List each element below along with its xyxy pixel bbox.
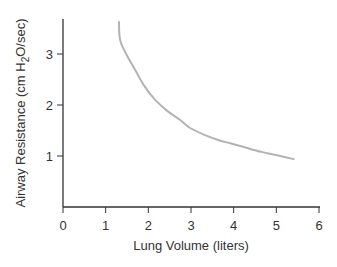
chart: 123 0123456 Lung Volume (liters) Airway … — [0, 0, 337, 267]
x-axis: 0123456 — [59, 207, 322, 233]
y-tick-label: 1 — [46, 149, 53, 164]
x-tick-label: 6 — [315, 218, 322, 233]
y-tick-label: 3 — [46, 47, 53, 62]
x-tick-label: 2 — [145, 218, 152, 233]
x-tick-label: 1 — [102, 218, 109, 233]
y-tick-label: 2 — [46, 98, 53, 113]
x-tick-label: 0 — [59, 218, 66, 233]
y-ticks: 123 — [46, 47, 63, 164]
x-ticks: 0123456 — [59, 207, 322, 233]
x-tick-label: 5 — [273, 218, 280, 233]
resistance-curve — [119, 22, 294, 159]
x-tick-label: 3 — [187, 218, 194, 233]
y-axis-title: Airway Resistance (cm H2O/sec) — [13, 18, 31, 207]
x-axis-title: Lung Volume (liters) — [133, 238, 249, 253]
x-tick-label: 4 — [230, 218, 237, 233]
y-axis: 123 — [46, 19, 63, 207]
